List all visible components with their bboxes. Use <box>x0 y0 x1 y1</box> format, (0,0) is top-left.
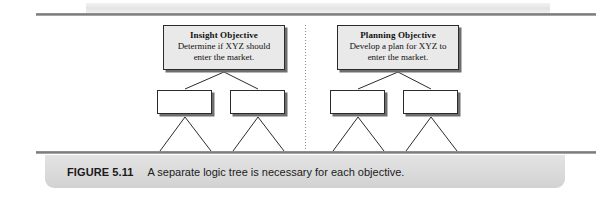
insight-objective-box: Insight Objective Determine if XYZ shoul… <box>163 25 285 70</box>
planning-objective-box: Planning Objective Develop a plan for XY… <box>337 25 459 70</box>
planning-branch-box-2 <box>403 90 458 114</box>
bottom-horizontal-rule <box>36 151 596 154</box>
planning-objective-line-2: enter the market. <box>338 52 458 63</box>
planning-branch-box-1 <box>330 90 385 114</box>
figure-number-label: FIGURE 5.11 <box>67 166 134 178</box>
figure-caption-panel: FIGURE 5.11 A separate logic tree is nec… <box>45 155 565 188</box>
planning-objective-title: Planning Objective <box>338 29 458 41</box>
figure-caption-text: A separate logic tree is necessary for e… <box>148 166 405 178</box>
insight-objective-title: Insight Objective <box>164 29 284 41</box>
insight-objective-line-1: Determine if XYZ should <box>164 41 284 52</box>
vertical-dotted-divider <box>305 25 306 149</box>
planning-objective-line-1: Develop a plan for XYZ to <box>338 41 458 52</box>
logic-tree-diagram: Insight Objective Determine if XYZ shoul… <box>0 0 611 152</box>
insight-branch-box-1 <box>157 90 212 114</box>
insight-objective-line-2: enter the market. <box>164 52 284 63</box>
insight-branch-box-2 <box>230 90 285 114</box>
figure-page: Insight Objective Determine if XYZ shoul… <box>0 0 611 198</box>
